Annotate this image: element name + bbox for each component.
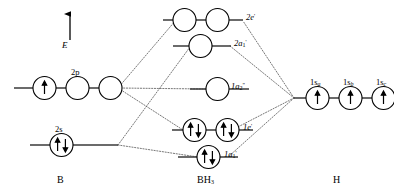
- orbitals-mo-1a1: [197, 146, 220, 169]
- energy-axis-label: E: [62, 41, 68, 50]
- mo-diagram-canvas: [0, 0, 394, 192]
- orbitals-hydrogen-1s: [306, 87, 394, 110]
- mo-label-1a1-prime: ': [236, 150, 237, 156]
- orbitals-boron-2p: [33, 77, 122, 100]
- ao-label-1sa-main: 1s: [310, 77, 318, 87]
- ao-label-1sc-main: 1s: [376, 77, 384, 87]
- mo-label-2e: 2e': [246, 13, 255, 22]
- mo-label-1a1-main: 1a: [224, 149, 233, 159]
- correlation-2s-to-1a1: [118, 145, 198, 157]
- ao-label-1sc-sub: c: [384, 81, 387, 87]
- ao-label-2p: 2p: [71, 68, 80, 77]
- ao-label-1sb-main: 1s: [343, 77, 351, 87]
- correlation-2p-to-1e: [118, 88, 183, 130]
- orbitals-mo-2a1: [189, 35, 212, 58]
- correlation-h-to-1e: [232, 98, 294, 130]
- ao-label-1sb-sub: b: [351, 81, 354, 87]
- mo-label-2a1: 2a1': [234, 39, 247, 48]
- mo-diagram: E 2p 2s 2e' 2a1' 1a2" 1e' 1a1' 1sa 1sb 1…: [0, 0, 394, 192]
- orbitals-mo-1a2: [206, 78, 229, 101]
- mo-label-1e-main: 1e: [243, 122, 251, 132]
- mo-label-1a2: 1a2": [231, 82, 245, 91]
- ao-label-1sb: 1sb: [343, 78, 354, 87]
- correlation-2p-to-2e: [118, 20, 176, 88]
- ao-label-1sa-sub: a: [318, 81, 321, 87]
- column-label-hydrogen: H: [333, 175, 340, 185]
- mo-label-2e-main: 2e: [246, 12, 254, 22]
- mo-label-2a1-main: 2a: [234, 38, 243, 48]
- column-label-boron: B: [57, 175, 64, 185]
- mo-label-1a2-dprime: ": [243, 82, 245, 88]
- ao-label-1sa: 1sa: [310, 78, 321, 87]
- ao-label-2s: 2s: [55, 125, 63, 134]
- mo-label-2e-prime: ': [254, 13, 255, 19]
- mo-label-1e: 1e': [243, 123, 252, 132]
- mo-label-2a1-prime: ': [246, 39, 247, 45]
- mo-label-1a1: 1a1': [224, 150, 237, 159]
- correlation-h-to-2e: [243, 21, 294, 98]
- mo-label-1e-prime: ': [251, 123, 252, 129]
- orbitals-boron-2s: [50, 134, 73, 157]
- mo-label-1a2-main: 1a: [231, 81, 240, 91]
- column-label-bh3: BH3: [197, 175, 214, 185]
- ao-label-1sc: 1sc: [376, 78, 386, 87]
